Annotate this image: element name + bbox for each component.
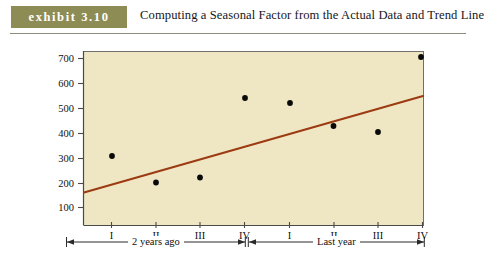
y-tick-label: 200 (38, 178, 74, 189)
trend-line (84, 96, 423, 193)
data-point (153, 180, 159, 186)
data-point (418, 54, 424, 60)
plot-svg (0, 34, 474, 257)
data-points (109, 54, 424, 185)
x-tick-label: IV (230, 230, 260, 241)
y-tick-label: 600 (38, 78, 74, 89)
y-tick-label: 700 (38, 53, 74, 64)
data-point (242, 95, 248, 101)
exhibit-title: Computing a Seasonal Factor from the Act… (140, 8, 484, 23)
y-tick-label: 100 (38, 202, 74, 213)
data-point (287, 100, 293, 106)
x-tick-label: I (97, 230, 127, 241)
y-tick-label: 300 (38, 153, 74, 164)
x-tick-label: III (185, 230, 215, 241)
chart-container: 700 600 500 400 300 200 100 I II III IV … (0, 34, 474, 257)
bracket-label-last-year: Last year (313, 236, 360, 247)
y-tick-label: 400 (38, 128, 74, 139)
x-tick-label: IV (408, 230, 438, 241)
data-point (109, 153, 115, 159)
data-point (375, 129, 381, 135)
x-tick-label: I (275, 230, 305, 241)
data-point (331, 123, 337, 129)
exhibit-header: exhibit 3.10 Computing a Seasonal Factor… (0, 0, 474, 34)
y-tick-label: 500 (38, 103, 74, 114)
exhibit-number-badge: exhibit 3.10 (11, 6, 127, 28)
data-point (197, 175, 203, 181)
bracket-label-two-years-ago: 2 years ago (128, 236, 184, 247)
x-tick-label: III (363, 230, 393, 241)
exhibit-number-label: exhibit 3.10 (28, 10, 109, 25)
